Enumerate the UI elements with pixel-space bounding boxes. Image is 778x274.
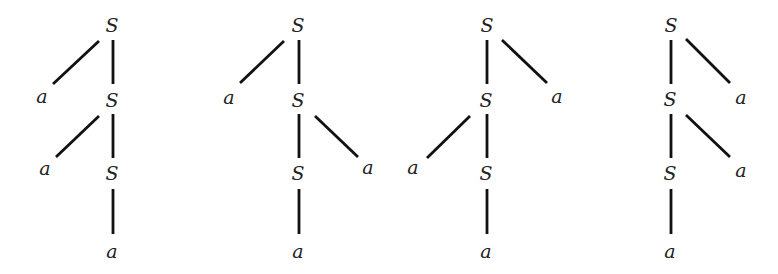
nonterminal-node: S xyxy=(480,14,493,36)
parse-tree-2: S a S a S a xyxy=(223,14,373,262)
nonterminal-node: S xyxy=(105,162,118,184)
nonterminal-node: S xyxy=(291,14,304,36)
terminal-node: a xyxy=(39,157,50,179)
nonterminal-node: S xyxy=(105,14,118,36)
tree-edge xyxy=(686,115,730,157)
nonterminal-node: S xyxy=(291,89,304,111)
terminal-node: a xyxy=(664,240,675,262)
terminal-node: a xyxy=(362,156,373,178)
nonterminal-node: S xyxy=(663,88,676,110)
terminal-node: a xyxy=(36,85,47,107)
tree-edge xyxy=(240,41,284,83)
tree-edge xyxy=(686,39,730,83)
terminal-node: a xyxy=(106,240,117,262)
nonterminal-node: S xyxy=(663,162,676,184)
parse-trees-diagram: S a S a S a S a S a S a S a S a S a xyxy=(0,0,778,274)
parse-tree-4: S a S a S a xyxy=(663,14,746,262)
nonterminal-node: S xyxy=(105,89,118,111)
terminal-node: a xyxy=(735,159,746,181)
tree-edge xyxy=(427,116,470,158)
tree-edge xyxy=(502,40,547,83)
parse-tree-3: S a S a S a xyxy=(407,14,562,262)
terminal-node: a xyxy=(551,85,562,107)
terminal-node: a xyxy=(407,156,418,178)
terminal-node: a xyxy=(223,86,234,108)
terminal-node: a xyxy=(292,240,303,262)
nonterminal-node: S xyxy=(479,89,492,111)
tree-edge xyxy=(56,116,99,157)
terminal-node: a xyxy=(480,240,491,262)
tree-edge xyxy=(53,41,99,84)
nonterminal-node: S xyxy=(664,14,677,36)
nonterminal-node: S xyxy=(291,162,304,184)
nonterminal-node: S xyxy=(479,162,492,184)
terminal-node: a xyxy=(735,86,746,108)
parse-tree-1: S a S a S a xyxy=(36,14,118,262)
tree-edge xyxy=(315,116,358,157)
